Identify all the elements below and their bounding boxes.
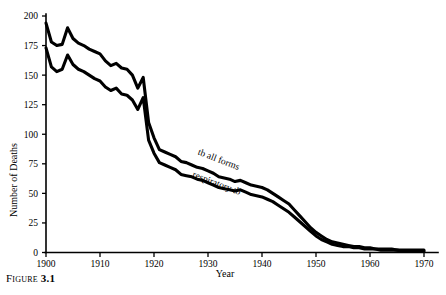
x-tick-label: 1940 — [253, 259, 272, 269]
y-tick-label: 50 — [29, 189, 39, 199]
x-tick-label: 1910 — [91, 259, 110, 269]
figure-caption-label: Figure — [6, 272, 38, 284]
x-tick-label: 1900 — [37, 259, 56, 269]
figure-caption-number: 3.1 — [41, 272, 55, 284]
y-tick-label: 175 — [24, 41, 39, 51]
x-axis-title: Year — [216, 268, 235, 279]
x-tick-label: 1950 — [307, 259, 326, 269]
series-line-tb-all-forms — [46, 23, 424, 250]
x-tick-label: 1960 — [361, 259, 380, 269]
x-tick-label: 1970 — [415, 259, 434, 269]
y-tick-label: 75 — [29, 159, 39, 169]
y-tick-label: 200 — [24, 11, 39, 21]
x-tick-label: 1920 — [145, 259, 164, 269]
y-tick-label: 150 — [24, 71, 39, 81]
y-tick-label: 25 — [29, 218, 39, 228]
y-tick-label: 100 — [24, 130, 39, 140]
series-annotation-respiratory-tb: respiratory tb — [191, 169, 242, 197]
y-axis-ticks: 0255075100125150175200 — [24, 11, 46, 258]
x-axis-ticks: 19001910192019301940195019601970 — [37, 253, 434, 270]
figure-container: 0255075100125150175200 19001910192019301… — [0, 0, 446, 295]
y-axis-title: Number of Deaths — [8, 143, 19, 217]
series-line-respiratory-tb — [46, 48, 424, 251]
y-tick-label: 0 — [33, 248, 38, 258]
figure-caption: Figure3.1 — [6, 272, 55, 284]
line-chart: 0255075100125150175200 19001910192019301… — [0, 0, 446, 295]
y-tick-label: 125 — [24, 100, 39, 110]
